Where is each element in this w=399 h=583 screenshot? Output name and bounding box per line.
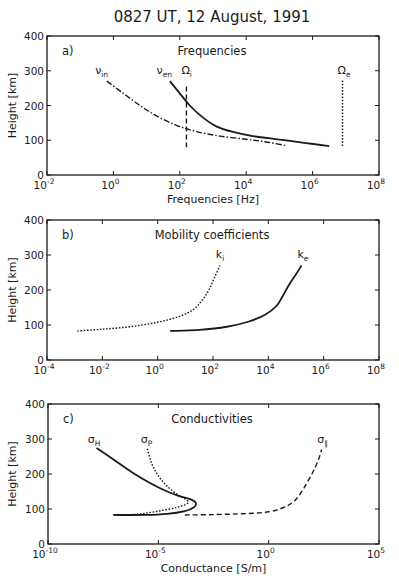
series-σ_P	[125, 449, 188, 515]
x-tick-label: 102	[168, 177, 186, 191]
x-tick-label: 106	[301, 177, 319, 191]
x-tick-label: 108	[367, 362, 385, 376]
panel-frequencies: 10-21001021041061080100200300400Height […	[6, 30, 385, 206]
panel-title: Conductivities	[171, 412, 253, 426]
series-ν_in	[107, 81, 286, 145]
y-tick-label: 0	[38, 538, 45, 550]
series-label: Ωe	[338, 64, 351, 79]
x-tick-label: 10-2	[89, 362, 110, 376]
series-label: σP	[141, 433, 153, 448]
x-tick-label: 106	[312, 362, 330, 376]
figure: 0827 UT, 12 August, 1991 10-210010210410…	[0, 0, 399, 583]
x-tick-label: 100	[257, 546, 275, 560]
x-tick-label: 100	[101, 177, 119, 191]
series-label: ke	[297, 248, 308, 263]
y-tick-label: 100	[25, 503, 45, 515]
x-tick-label: 104	[256, 362, 274, 376]
series-label: σH	[88, 433, 101, 448]
x-tick-label: 10-10	[32, 546, 58, 560]
x-tick-label: 102	[201, 362, 219, 376]
series-label: Ωi	[181, 64, 192, 79]
series-label: ki	[216, 248, 224, 263]
y-tick-label: 300	[24, 249, 44, 261]
x-tick-label: 108	[367, 177, 385, 191]
series-label: νin	[95, 64, 108, 79]
panel-conductivities: 10-1010-51001050100200300400Height [km]C…	[6, 398, 385, 575]
y-tick-label: 300	[24, 65, 44, 77]
panel-label: c)	[63, 412, 74, 426]
y-tick-label: 400	[24, 214, 44, 226]
y-axis-label: Height [km]	[6, 73, 19, 139]
x-axis-label: Frequencies [Hz]	[167, 193, 259, 206]
x-tick-label: 104	[234, 177, 252, 191]
x-tick-label: 105	[367, 546, 385, 560]
series-σ_∥	[185, 450, 322, 515]
panel-label: a)	[62, 44, 74, 58]
panel-title: Mobility coefficients	[155, 228, 270, 242]
y-tick-label: 300	[25, 433, 45, 445]
series-label: νen	[157, 64, 173, 79]
y-axis-label: Height [km]	[6, 441, 19, 507]
y-tick-label: 200	[25, 468, 45, 480]
y-tick-label: 0	[37, 169, 44, 181]
y-tick-label: 100	[24, 319, 44, 331]
panel-mobility-coefficients: 10-410-21001021041061080100200300400Heig…	[6, 214, 385, 376]
x-tick-label: 100	[146, 362, 164, 376]
panel-title: Frequencies	[178, 44, 247, 58]
y-tick-label: 200	[24, 100, 44, 112]
series-k_i	[77, 266, 219, 331]
x-tick-label: 10-5	[145, 546, 166, 560]
y-tick-label: 0	[37, 354, 44, 366]
y-tick-label: 400	[25, 398, 45, 410]
panel-label: b)	[62, 228, 74, 242]
figure-title: 0827 UT, 12 August, 1991	[114, 8, 311, 26]
y-tick-label: 100	[24, 134, 44, 146]
y-tick-label: 200	[24, 284, 44, 296]
x-axis-label: Conductance [S/m]	[161, 562, 267, 575]
series-label: σ∥	[317, 433, 328, 448]
y-axis-label: Height [km]	[6, 257, 19, 323]
series-σ_H	[97, 448, 196, 515]
series-ν_en	[170, 81, 329, 146]
series-k_e	[170, 266, 301, 331]
y-tick-label: 400	[24, 30, 44, 42]
